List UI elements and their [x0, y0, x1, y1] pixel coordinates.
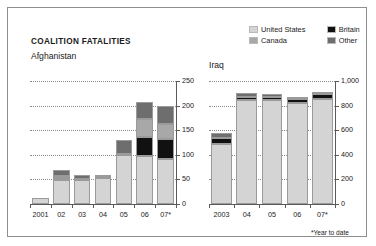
bar-segment — [116, 140, 133, 155]
bar — [53, 170, 70, 204]
y-axis-tick-label: 400 — [341, 150, 353, 159]
bar-segment — [53, 170, 70, 176]
bar-segment — [53, 176, 70, 178]
x-axis-tick-mark — [176, 205, 177, 208]
legend-label: Canada — [261, 36, 287, 45]
bar-segment — [157, 106, 174, 125]
gridline — [30, 155, 176, 156]
bar-segment — [211, 144, 232, 204]
legend: United StatesBritainCanadaOther — [249, 25, 374, 45]
bar-segment — [74, 180, 91, 204]
bar-segment — [136, 102, 153, 119]
x-axis-tick-mark — [155, 205, 156, 208]
x-axis-tick-mark — [113, 205, 114, 208]
legend-swatch-icon — [327, 37, 336, 44]
bar-segment — [236, 93, 257, 97]
bar-segment — [287, 97, 308, 100]
x-axis-tick-mark — [335, 205, 336, 208]
bar-segment — [157, 139, 174, 159]
y-axis-tick-label: 0 — [341, 199, 345, 208]
gridline — [30, 81, 176, 82]
bar — [32, 198, 49, 204]
legend-item: Canada — [249, 36, 320, 45]
bar — [116, 140, 133, 204]
page-title: COALITION FATALITIES — [31, 37, 131, 46]
legend-item: Britain — [327, 25, 374, 34]
bar-segment — [262, 97, 283, 100]
legend-item: United States — [249, 25, 320, 34]
gridline — [209, 81, 335, 82]
legend-label: United States — [261, 25, 305, 34]
y-axis-tick-label: 800 — [341, 101, 353, 110]
legend-swatch-icon — [327, 26, 336, 33]
bar — [211, 133, 232, 204]
bar — [74, 175, 91, 204]
legend-swatch-icon — [249, 26, 258, 33]
bar-segment — [53, 180, 70, 204]
y-axis-line — [176, 81, 177, 205]
x-axis-tick-label: 03 — [72, 210, 93, 219]
bar — [312, 92, 333, 204]
x-axis-tick-label: 2003 — [209, 210, 234, 219]
bar-segment — [157, 124, 174, 139]
x-axis-tick-mark — [209, 205, 210, 208]
bar-segment — [287, 99, 308, 103]
y-axis-tick-label: 100 — [182, 150, 194, 159]
y-axis-tick-label: 600 — [341, 125, 353, 134]
chart-title-iraq: Iraq — [209, 60, 224, 70]
footnote: *Year to date — [311, 229, 349, 236]
x-axis-tick-mark — [51, 205, 52, 208]
bar — [236, 93, 257, 204]
bar-segment — [236, 97, 257, 100]
x-axis-tick-label: 04 — [93, 210, 114, 219]
chart-afghanistan: 0501001502002502001020304050607* — [30, 81, 176, 204]
x-axis-tick-label: 04 — [234, 210, 259, 219]
bar — [157, 106, 174, 204]
y-axis-tick-label: 1,000 — [341, 76, 359, 85]
bar-segment — [74, 175, 91, 179]
x-axis-tick-mark — [72, 205, 73, 208]
x-axis-tick-mark — [134, 205, 135, 208]
legend-label: Other — [339, 36, 357, 45]
bar-segment — [312, 92, 333, 94]
bar-segment — [262, 94, 283, 97]
x-axis-tick-label: 05 — [113, 210, 134, 219]
bar-segment — [136, 119, 153, 137]
x-axis-tick-mark — [30, 205, 31, 208]
x-axis-tick-label: 06 — [285, 210, 310, 219]
bar-segment — [236, 100, 257, 204]
bar-segment — [32, 198, 49, 204]
bar-segment — [211, 133, 232, 138]
bar — [95, 175, 112, 204]
y-axis-tick-label: 0 — [182, 199, 186, 208]
y-axis-tick-label: 50 — [182, 174, 190, 183]
y-axis-tick-label: 150 — [182, 125, 194, 134]
x-axis-tick-mark — [259, 205, 260, 208]
bar-segment — [95, 175, 112, 177]
chart-iraq: 02004006008001,000200304050607* — [209, 81, 335, 204]
bar — [136, 102, 153, 204]
bar-segment — [157, 159, 174, 204]
x-axis-tick-mark — [285, 205, 286, 208]
bar-segment — [287, 103, 308, 204]
bar-segment — [262, 100, 283, 204]
chart-panel: COALITION FATALITIES Afghanistan Iraq Un… — [7, 7, 367, 237]
y-axis-tick-label: 250 — [182, 76, 194, 85]
gridline — [30, 106, 176, 107]
x-axis-line — [30, 204, 176, 205]
bar — [287, 97, 308, 204]
x-axis-line — [209, 204, 335, 205]
y-axis-line — [335, 81, 336, 205]
bar-segment — [136, 156, 153, 204]
x-axis-tick-mark — [310, 205, 311, 208]
x-axis-tick-label: 07* — [310, 210, 335, 219]
chart-title-afghanistan: Afghanistan — [31, 51, 76, 61]
bar-segment — [95, 178, 112, 204]
gridline — [30, 130, 176, 131]
x-axis-tick-label: 02 — [51, 210, 72, 219]
x-axis-tick-mark — [234, 205, 235, 208]
bar — [262, 94, 283, 204]
x-axis-tick-label: 2001 — [30, 210, 51, 219]
x-axis-tick-mark — [93, 205, 94, 208]
y-axis-tick-label: 200 — [341, 174, 353, 183]
